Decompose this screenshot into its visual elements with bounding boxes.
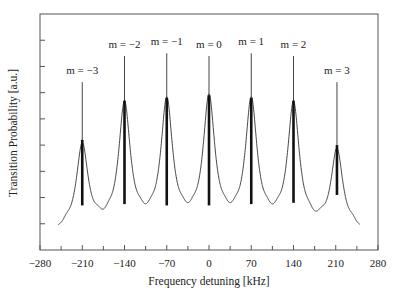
peak-label: m = −3 (66, 64, 98, 76)
peak-label: m = 0 (196, 38, 222, 50)
peak-label: m = 3 (324, 64, 350, 76)
peak-label: m = 2 (281, 38, 307, 50)
x-tick-label: −140 (113, 257, 136, 269)
x-tick-label: 280 (370, 257, 387, 269)
x-tick-label: 70 (246, 257, 258, 269)
x-axis-ticks (40, 245, 378, 250)
x-axis-title: Frequency detuning [kHz] (148, 275, 269, 288)
peak-label: m = 1 (238, 35, 264, 47)
x-tick-label: −280 (29, 257, 52, 269)
x-tick-label: 210 (328, 257, 345, 269)
chart: −280−210−140−70070140210280 m = −3m = −2… (0, 0, 399, 295)
peak-label: m = −2 (109, 38, 141, 50)
x-axis-tick-labels: −280−210−140−70070140210280 (29, 257, 387, 269)
y-axis-title: Transition Probability [a.u.] (7, 69, 20, 197)
x-tick-label: −70 (158, 257, 176, 269)
peak-label: m = −1 (151, 35, 183, 47)
peak-labels: m = −3m = −2m = −1m = 0m = 1m = 2m = 3 (66, 35, 350, 76)
x-tick-label: 140 (285, 257, 302, 269)
x-tick-label: 0 (206, 257, 212, 269)
y-axis-ticks (40, 40, 45, 224)
x-tick-label: −210 (71, 257, 94, 269)
